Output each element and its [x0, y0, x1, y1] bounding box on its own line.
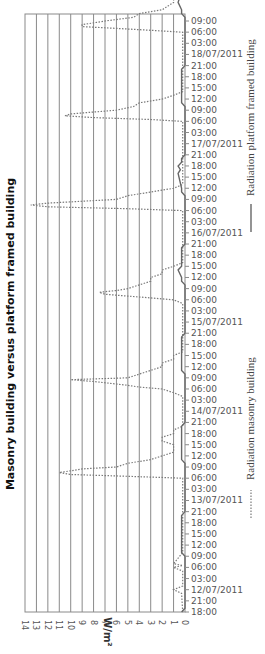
time-tick-label: 18:00	[191, 429, 217, 439]
time-tick-label: 06:00	[191, 116, 217, 126]
time-tick-label: 12:00	[191, 183, 217, 193]
time-tick-label: 09:00	[191, 373, 217, 383]
value-tick-label: 2	[157, 620, 166, 625]
grid-lines	[25, 14, 185, 612]
time-tick-label: 06:00	[191, 27, 217, 37]
time-tick-label: 12:00	[191, 540, 217, 550]
time-tick-label: 21:00	[191, 328, 217, 338]
time-tick-label: 15/07/2011	[191, 317, 243, 327]
time-tick-label: 13/07/2011	[191, 495, 243, 505]
value-tick-label: 13	[31, 620, 40, 630]
series-platform-line	[178, 0, 185, 612]
time-tick-label: 06:00	[191, 473, 217, 483]
time-tick-label: 18/07/2011	[191, 49, 243, 59]
value-tick-label: 4	[134, 620, 143, 625]
legend-masonry-label: Radiation masonry building	[244, 357, 256, 480]
time-tick-label: 09:00	[191, 194, 217, 204]
time-tick-label: 03:00	[191, 38, 217, 48]
time-tick-label: 03:00	[191, 306, 217, 316]
time-tick-label: 18:00	[191, 607, 217, 617]
time-tick-label: 09:00	[191, 16, 217, 26]
legend-platform-label: Radiation platform framed building	[244, 39, 256, 196]
time-tick-label: 15:00	[191, 172, 217, 182]
time-tick-label: 15:00	[191, 351, 217, 361]
value-tick-label: 5	[123, 620, 132, 625]
time-tick-label: 09:00	[191, 105, 217, 115]
time-tick-label: 21:00	[191, 61, 217, 71]
time-tick-label: 18:00	[191, 518, 217, 528]
time-tick-label: 15:00	[191, 529, 217, 539]
value-tick-label: 14	[20, 620, 29, 630]
time-tick-label: 18:00	[191, 161, 217, 171]
value-tick-label: 3	[146, 620, 155, 625]
time-tick-label: 12:00	[191, 272, 217, 282]
time-tick-label: 21:00	[191, 417, 217, 427]
time-tick-label: 06:00	[191, 384, 217, 394]
time-tick-label: 09:00	[191, 462, 217, 472]
time-tick-label: 06:00	[191, 562, 217, 572]
time-tick-label: 15:00	[191, 83, 217, 93]
time-tick-label: 21:00	[191, 507, 217, 517]
chart-title: Masonry building versus platform framed …	[4, 178, 17, 490]
time-tick-label: 18:00	[191, 250, 217, 260]
time-tick-label: 21:00	[191, 150, 217, 160]
time-tick-label: 12:00	[191, 451, 217, 461]
time-tick-label: 18:00	[191, 72, 217, 82]
time-tick-label: 15:00	[191, 440, 217, 450]
time-tick-label: 12/07/2011	[191, 585, 243, 595]
time-tick-label: 03:00	[191, 395, 217, 405]
time-tick-label: 12:00	[191, 94, 217, 104]
series-masonry-line	[31, 0, 183, 612]
value-axis-label: W/m²	[102, 617, 113, 646]
time-tick-label: 03:00	[191, 574, 217, 584]
time-tick-label: 06:00	[191, 295, 217, 305]
time-tick-label: 17/07/2011	[191, 139, 243, 149]
value-tick-label: 8	[89, 620, 98, 625]
time-tick-label: 12:00	[191, 362, 217, 372]
time-tick-label: 14/07/2011	[191, 406, 243, 416]
time-tick-label: 21:00	[191, 239, 217, 249]
value-tick-label: 1	[169, 620, 178, 625]
value-tick-label: 10	[66, 620, 75, 630]
chart: 01234567891011121314 18:0021:0012/07/201…	[0, 0, 265, 654]
time-tick-label: 21:00	[191, 596, 217, 606]
time-tick-label: 16/07/2011	[191, 228, 243, 238]
value-tick-label: 12	[43, 620, 52, 630]
time-tick-label: 09:00	[191, 551, 217, 561]
value-tick-label: 11	[54, 620, 63, 630]
time-tick-label: 03:00	[191, 217, 217, 227]
time-tick-label: 06:00	[191, 206, 217, 216]
time-tick-label: 18:00	[191, 339, 217, 349]
time-tick-label: 03:00	[191, 128, 217, 138]
value-tick-label: 9	[77, 620, 86, 625]
time-tick-label: 15:00	[191, 261, 217, 271]
value-tick-label: 0	[180, 620, 189, 625]
time-axis-ticks: 18:0021:0012/07/201103:0006:0009:0012:00…	[185, 16, 243, 617]
time-tick-label: 03:00	[191, 484, 217, 494]
time-tick-label: 09:00	[191, 284, 217, 294]
legend: Radiation masonry building Radiation pla…	[244, 39, 256, 518]
